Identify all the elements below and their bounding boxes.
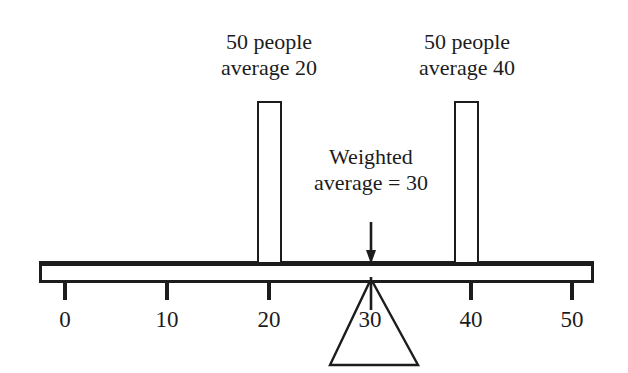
weighted-average-label: Weighted average = 30 <box>281 144 461 196</box>
axis-label-0: 0 <box>35 305 95 335</box>
left-group-average: average 20 <box>184 55 354 81</box>
weighted-average-line2: average = 30 <box>281 170 461 196</box>
weighted-average-diagram: 50 people average 20 50 people average 4… <box>0 0 628 373</box>
right-group-count: 50 people <box>382 29 552 55</box>
left-group-label: 50 people average 20 <box>184 29 354 81</box>
right-group-label: 50 people average 40 <box>382 29 552 81</box>
weighted-average-line1: Weighted <box>281 144 461 170</box>
axis-label-40: 40 <box>441 305 501 335</box>
axis-label-50: 50 <box>542 305 602 335</box>
axis-label-30: 30 <box>340 305 400 335</box>
axis-label-20: 20 <box>239 305 299 335</box>
right-group-average: average 40 <box>382 55 552 81</box>
weighted-average-arrow <box>366 222 376 264</box>
axis-label-10: 10 <box>137 305 197 335</box>
bar-left-20 <box>258 102 281 263</box>
left-group-count: 50 people <box>184 29 354 55</box>
